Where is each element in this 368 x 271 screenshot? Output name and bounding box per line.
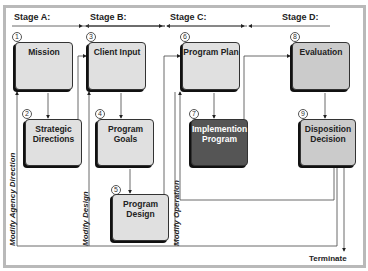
stage-d-label: Stage D: — [282, 12, 319, 22]
box-program-plan: Program Plan — [182, 42, 240, 90]
step-number-7: 7 — [189, 109, 199, 119]
step-number-6: 6 — [180, 32, 190, 42]
box-program-design: Program Design — [112, 194, 169, 241]
box-disposition-decision: Disposition Decision — [300, 119, 356, 166]
box-mission: Mission — [15, 42, 73, 90]
label-modify-agency-direction: Modify Agency Direction — [8, 153, 17, 247]
stage-b-label: Stage B: — [90, 12, 127, 22]
box-evaluation: Evaluation — [292, 42, 350, 90]
label-modify-design: Modify Design — [81, 191, 90, 246]
box-strategic-directions: Strategic Directions — [25, 119, 82, 166]
step-number-2: 2 — [22, 109, 32, 119]
step-number-9: 9 — [298, 109, 308, 119]
box-implementation-program: Implemention Program — [191, 119, 248, 166]
step-number-3: 3 — [86, 32, 96, 42]
terminate-label: Terminate — [309, 254, 347, 263]
box-program-goals: Program Goals — [97, 119, 154, 166]
stage-a-label: Stage A: — [14, 12, 50, 22]
step-number-8: 8 — [290, 32, 300, 42]
step-number-4: 4 — [95, 109, 105, 119]
label-modify-operation: Modify Operation — [172, 180, 181, 246]
box-client-input: Client Input — [88, 42, 146, 90]
step-number-1: 1 — [12, 32, 22, 42]
stage-c-label: Stage C: — [170, 12, 207, 22]
